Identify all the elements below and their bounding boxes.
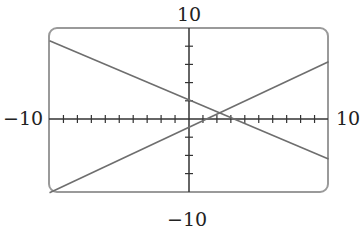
axes (49, 28, 328, 192)
x-min-label: −10 (3, 109, 43, 128)
x-max-label: 10 (336, 109, 360, 128)
y-min-label: −10 (167, 210, 207, 229)
y-max-label: 10 (177, 5, 201, 24)
